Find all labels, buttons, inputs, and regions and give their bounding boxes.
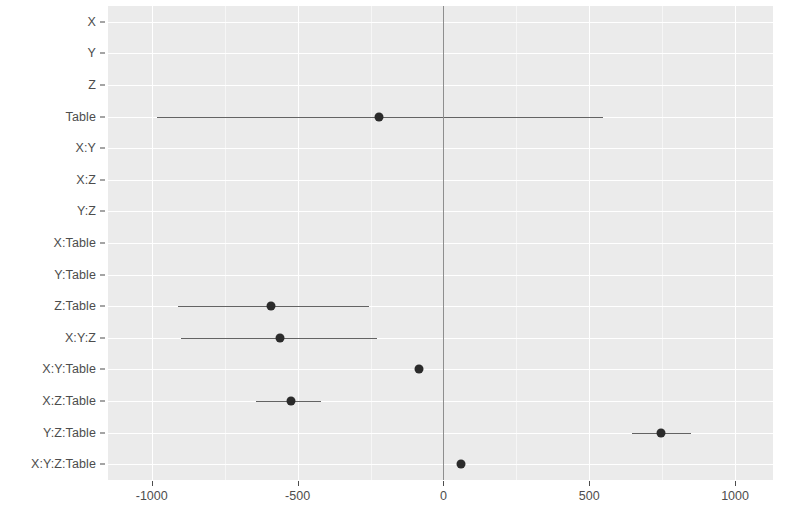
gridline-major-horizontal bbox=[108, 464, 773, 465]
y-axis-tick-mark bbox=[100, 464, 105, 465]
x-axis-tick-label: -500 bbox=[285, 489, 310, 503]
data-point bbox=[267, 302, 276, 311]
x-axis-tick-mark bbox=[298, 481, 299, 486]
coefficient-plot-figure: XYZTableX:YX:ZY:ZX:TableY:TableZ:TableX:… bbox=[0, 0, 785, 530]
y-axis-tick-mark bbox=[100, 53, 105, 54]
x-axis-tick-mark bbox=[735, 481, 736, 486]
data-point bbox=[374, 112, 383, 121]
y-axis-tick-label: X:Y bbox=[76, 141, 96, 155]
x-axis-tick-mark bbox=[443, 481, 444, 486]
data-point bbox=[286, 397, 295, 406]
y-axis-tick-mark bbox=[100, 116, 105, 117]
gridline-major-horizontal bbox=[108, 369, 773, 370]
x-axis-tick-mark bbox=[589, 481, 590, 486]
y-axis-tick-mark bbox=[100, 337, 105, 338]
y-axis-tick-mark bbox=[100, 148, 105, 149]
zero-reference-line bbox=[443, 6, 444, 480]
y-axis-tick-label: Z:Table bbox=[54, 299, 96, 313]
y-axis-tick-mark bbox=[100, 85, 105, 86]
y-axis-tick-mark bbox=[100, 21, 105, 22]
data-point bbox=[415, 365, 424, 374]
gridline-major-horizontal bbox=[108, 148, 773, 149]
y-axis-tick-mark bbox=[100, 401, 105, 402]
y-axis-tick-label: X:Z:Table bbox=[42, 394, 96, 408]
y-axis-tick-mark bbox=[100, 243, 105, 244]
y-axis-tick-mark bbox=[100, 369, 105, 370]
x-axis-tick-mark bbox=[152, 481, 153, 486]
gridline-major-horizontal bbox=[108, 243, 773, 244]
x-axis-tick-label: 0 bbox=[440, 489, 447, 503]
y-axis-tick-label: X:Y:Table bbox=[42, 362, 96, 376]
y-axis-tick-mark bbox=[100, 211, 105, 212]
y-axis: XYZTableX:YX:ZY:ZX:TableY:TableZ:TableX:… bbox=[0, 6, 96, 480]
y-axis-tick-mark bbox=[100, 274, 105, 275]
x-axis-tick-label: -1000 bbox=[136, 489, 168, 503]
y-axis-tick-mark bbox=[100, 306, 105, 307]
y-axis-tick-label: Z bbox=[88, 78, 96, 92]
gridline-major-horizontal bbox=[108, 211, 773, 212]
data-point bbox=[276, 333, 285, 342]
y-axis-tick-label: Y:Z bbox=[77, 204, 96, 218]
y-axis-tick-label: Table bbox=[66, 110, 96, 124]
y-axis-tick-label: X:Y:Z:Table bbox=[31, 457, 96, 471]
data-point bbox=[656, 428, 665, 437]
y-axis-tick-label: Y bbox=[88, 46, 96, 60]
gridline-major-horizontal bbox=[108, 53, 773, 54]
y-axis-tick-label: Y:Z:Table bbox=[43, 426, 96, 440]
gridline-major-horizontal bbox=[108, 180, 773, 181]
y-axis-tick-label: X:Z bbox=[76, 173, 96, 187]
y-axis-tick-label: X:Y:Z bbox=[65, 331, 96, 345]
x-axis-tick-label: 500 bbox=[579, 489, 600, 503]
gridline-major-horizontal bbox=[108, 85, 773, 86]
x-axis-tick-label: 1000 bbox=[721, 489, 749, 503]
gridline-major-horizontal bbox=[108, 401, 773, 402]
gridline-major-horizontal bbox=[108, 22, 773, 23]
y-axis-tick-label: X bbox=[88, 15, 96, 29]
y-axis-tick-mark bbox=[100, 179, 105, 180]
y-axis-tick-mark bbox=[100, 432, 105, 433]
data-point bbox=[456, 460, 465, 469]
gridline-major-horizontal bbox=[108, 275, 773, 276]
y-axis-tick-label: Y:Table bbox=[54, 268, 96, 282]
plot-panel bbox=[108, 6, 773, 480]
y-axis-tick-label: X:Table bbox=[54, 236, 96, 250]
